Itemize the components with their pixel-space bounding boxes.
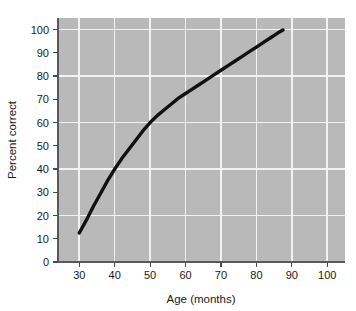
y-tick-label-20: 20 (37, 210, 49, 222)
y-axis-tick-labels: 0102030405060708090100 (31, 24, 49, 268)
x-tick-label-40: 40 (109, 269, 121, 281)
y-tick-label-100: 100 (31, 24, 49, 36)
x-tick-label-30: 30 (73, 269, 85, 281)
y-tick-label-30: 30 (37, 186, 49, 198)
x-axis-tick-labels: 30405060708090100 (73, 269, 336, 281)
x-tick-label-70: 70 (215, 269, 227, 281)
y-axis-tick-marks (53, 30, 58, 262)
y-tick-label-70: 70 (37, 93, 49, 105)
plot-background (58, 18, 345, 262)
y-tick-label-50: 50 (37, 140, 49, 152)
x-tick-label-80: 80 (250, 269, 262, 281)
y-tick-label-60: 60 (37, 117, 49, 129)
y-tick-label-40: 40 (37, 163, 49, 175)
percent-correct-vs-age-line-chart: 0102030405060708090100 30405060708090100… (0, 0, 356, 311)
x-tick-label-100: 100 (318, 269, 336, 281)
x-tick-label-50: 50 (144, 269, 156, 281)
x-axis-tick-marks (79, 262, 327, 267)
y-tick-label-80: 80 (37, 70, 49, 82)
y-tick-label-0: 0 (43, 256, 49, 268)
x-axis-title: Age (months) (166, 293, 235, 305)
x-tick-label-60: 60 (179, 269, 191, 281)
x-tick-label-90: 90 (286, 269, 298, 281)
y-tick-label-10: 10 (37, 233, 49, 245)
y-axis-title: Percent correct (6, 100, 18, 179)
chart-figure: 0102030405060708090100 30405060708090100… (0, 0, 356, 311)
y-tick-label-90: 90 (37, 47, 49, 59)
